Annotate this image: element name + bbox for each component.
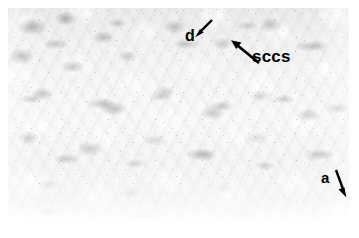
- micrograph-figure: d sccs a: [0, 0, 359, 238]
- micrograph-image: [8, 8, 349, 218]
- print-edge-fade: [8, 8, 349, 218]
